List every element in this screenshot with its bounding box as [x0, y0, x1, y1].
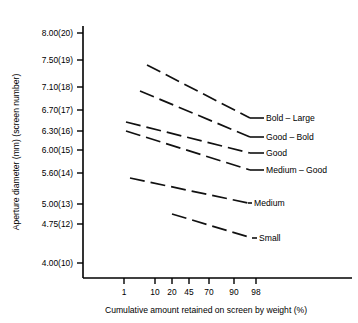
x-tick-label: 70	[204, 287, 214, 297]
x-tick-label: 10	[150, 287, 160, 297]
y-tick-label: 8.00(20)	[42, 28, 73, 38]
aperture-diameter-chart: 8.00(20)7.50(19)7.10(18)6.70(17)6.30(16)…	[0, 0, 358, 323]
x-tick-label: 90	[229, 287, 239, 297]
series-label-2: Good	[266, 148, 287, 158]
series-line-0	[147, 65, 250, 118]
y-tick-label: 5.60(14)	[42, 168, 73, 178]
series-label-5: Small	[259, 233, 281, 243]
series-line-4	[130, 178, 248, 203]
x-axis-tick-labels: 1102045709098	[122, 287, 261, 297]
x-tick-label: 20	[167, 287, 177, 297]
series-label-1: Good – Bold	[266, 132, 314, 142]
y-tick-label: 6.70(17)	[42, 105, 73, 115]
y-tick-label: 7.10(18)	[42, 82, 73, 92]
y-tick-label: 4.75(12)	[42, 219, 73, 229]
data-series-lines	[126, 65, 252, 238]
series-labels: Bold – LargeGood – BoldGoodMedium – Good…	[248, 113, 327, 243]
series-label-4: Medium	[254, 198, 285, 208]
x-axis-ticks	[124, 278, 256, 284]
y-tick-label: 4.00(10)	[42, 258, 73, 268]
series-label-3: Medium – Good	[266, 165, 327, 175]
x-tick-label: 98	[251, 287, 261, 297]
series-line-5	[172, 214, 252, 238]
y-axis-ticks	[77, 33, 83, 263]
x-axis-title: Cumulative amount retained on screen by …	[105, 305, 307, 315]
y-tick-label: 7.50(19)	[42, 55, 73, 65]
chart-container: 8.00(20)7.50(19)7.10(18)6.70(17)6.30(16)…	[0, 0, 358, 323]
x-tick-label: 1	[122, 287, 127, 297]
y-tick-label: 6.00(15)	[42, 145, 73, 155]
y-axis-title: Aperture diameter (mm) (screen number)	[11, 74, 21, 231]
series-line-2	[126, 122, 250, 153]
y-axis-tick-labels: 8.00(20)7.50(19)7.10(18)6.70(17)6.30(16)…	[42, 28, 73, 268]
y-tick-label: 5.00(13)	[42, 199, 73, 209]
x-tick-label: 45	[184, 287, 194, 297]
y-tick-label: 6.30(16)	[42, 126, 73, 136]
series-label-0: Bold – Large	[266, 113, 315, 123]
